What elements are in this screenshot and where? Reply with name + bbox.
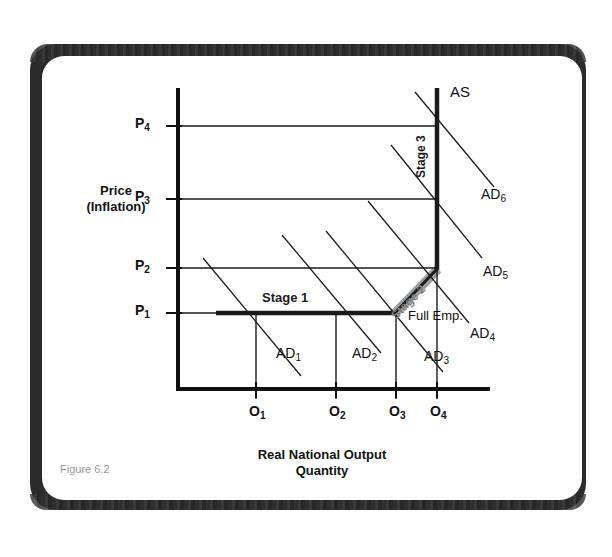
output-tick-sub-o1: 1 bbox=[260, 410, 266, 421]
price-tick-label-p4: P4 bbox=[135, 116, 150, 133]
y-axis-title: Price (Inflation) bbox=[66, 184, 166, 213]
ad3-label-sub: 3 bbox=[443, 355, 449, 366]
output-tick-label-o1: O1 bbox=[249, 404, 266, 421]
output-tick-letter-o3: O bbox=[389, 403, 400, 419]
ad1-label-text: AD bbox=[276, 345, 295, 361]
ad4-label: AD4 bbox=[470, 326, 495, 343]
ad3-label: AD3 bbox=[424, 349, 449, 366]
output-tick-sub-o4: 4 bbox=[441, 410, 447, 421]
output-tick-letter-o4: O bbox=[430, 403, 441, 419]
ad5-label-sub: 5 bbox=[502, 270, 508, 281]
stage1-label: Stage 1 bbox=[262, 291, 308, 305]
as-curve-label: AS bbox=[450, 84, 470, 100]
output-tick-label-o2: O2 bbox=[329, 404, 346, 421]
price-tick-sub-p2: 2 bbox=[144, 264, 150, 275]
ad5-label-text: AD bbox=[483, 263, 502, 279]
price-tick-sub-p4: 4 bbox=[144, 122, 150, 133]
x-axis-title-line1: Real National Output bbox=[222, 448, 422, 462]
output-tick-label-o4: O4 bbox=[430, 404, 447, 421]
ad6-label-sub: 6 bbox=[500, 193, 506, 204]
output-tick-sub-o3: 3 bbox=[400, 410, 406, 421]
y-axis-title-line1: Price bbox=[66, 184, 166, 198]
figure-caption: Figure 6.2 bbox=[60, 464, 110, 476]
ad2-label-text: AD bbox=[352, 345, 371, 361]
output-tick-label-o3: O3 bbox=[389, 404, 406, 421]
ad1-label: AD1 bbox=[276, 346, 301, 363]
ad4-label-text: AD bbox=[470, 325, 489, 341]
full-employment-label: Full Emp. bbox=[408, 309, 463, 323]
ad6-label: AD6 bbox=[481, 187, 506, 204]
price-tick-label-p2: P2 bbox=[135, 258, 150, 275]
y-axis-title-line2: (Inflation) bbox=[66, 200, 166, 214]
output-tick-letter-o2: O bbox=[329, 403, 340, 419]
price-tick-sub-p1: 1 bbox=[144, 309, 150, 320]
stage3-label: Stage 3 bbox=[415, 135, 428, 178]
ad6-label-text: AD bbox=[481, 186, 500, 202]
ad3-label-text: AD bbox=[424, 348, 443, 364]
ad2-label-sub: 2 bbox=[371, 352, 377, 363]
output-tick-sub-o2: 2 bbox=[340, 410, 346, 421]
ad5-label: AD5 bbox=[483, 264, 508, 281]
price-tick-label-p1: P1 bbox=[135, 303, 150, 320]
ad2-label: AD2 bbox=[352, 346, 377, 363]
x-axis-title: Real National Output Quantity bbox=[222, 448, 422, 477]
price-tick-letter-p4: P bbox=[135, 115, 144, 131]
output-tick-letter-o1: O bbox=[249, 403, 260, 419]
price-tick-letter-p1: P bbox=[135, 302, 144, 318]
ad4-label-sub: 4 bbox=[489, 332, 495, 343]
price-tick-letter-p2: P bbox=[135, 257, 144, 273]
x-axis-title-line2: Quantity bbox=[222, 464, 422, 478]
ad1-label-sub: 1 bbox=[295, 352, 301, 363]
